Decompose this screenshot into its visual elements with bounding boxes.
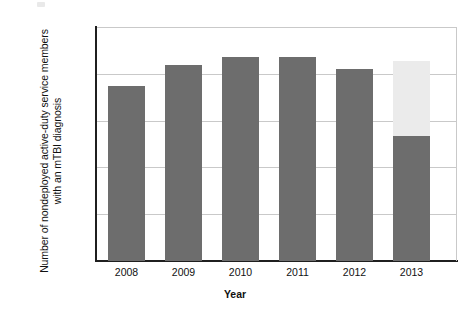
y-axis-title: Number of nondeployed active-duty servic…: [34, 26, 68, 276]
bar-2012: [336, 27, 373, 261]
bar-2008: [108, 27, 145, 261]
bar-2013: [393, 27, 430, 261]
plot-area: 05,00010,00015,00020,00025,000: [97, 27, 457, 261]
x-axis-title: Year: [0, 288, 470, 300]
bar-2011: [279, 27, 316, 261]
bar-2009: [165, 27, 202, 261]
x-tick-label-2012: 2012: [325, 266, 385, 278]
bar-segment-2013-dark: [393, 136, 430, 261]
bar-segment-2012-dark: [336, 69, 373, 261]
bar-segment-2008-dark: [108, 86, 145, 261]
bar-segment-2010-dark: [222, 57, 259, 261]
x-tick-label-2013: 2013: [382, 266, 442, 278]
plot-right-border: [456, 27, 457, 261]
bar-2010: [222, 27, 259, 261]
x-tick-label-2009: 2009: [154, 266, 214, 278]
x-tick-label-2010: 2010: [211, 266, 271, 278]
scan-artifact: [37, 2, 45, 7]
bar-segment-2011-dark: [279, 57, 316, 261]
chart-figure: Number of nondeployed active-duty servic…: [0, 0, 470, 309]
x-tick-label-2011: 2011: [268, 266, 328, 278]
x-tick-label-2008: 2008: [97, 266, 157, 278]
bar-segment-2009-dark: [165, 65, 202, 261]
bar-segment-2013-light: [393, 61, 430, 136]
